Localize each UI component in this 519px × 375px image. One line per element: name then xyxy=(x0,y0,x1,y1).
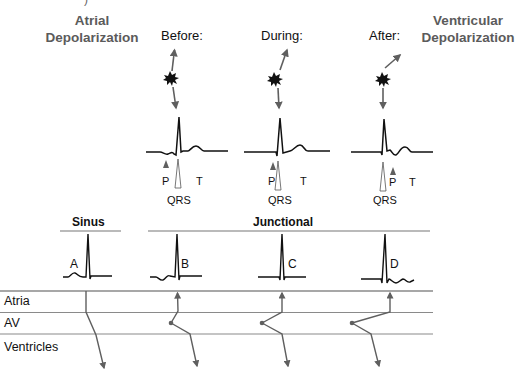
after-focus-group xyxy=(375,55,400,108)
during-focus-group xyxy=(267,50,287,108)
sinus-conduction-arrow xyxy=(86,291,104,368)
conduction-path-d xyxy=(350,293,390,366)
ecg-trace-d xyxy=(361,234,414,283)
p-wave-marker-after xyxy=(390,167,396,175)
antegrade-arrow-d xyxy=(352,323,379,366)
qrs-marker-during xyxy=(275,161,281,190)
ecg-trace-c xyxy=(258,234,306,280)
junctional-focus-icon-before xyxy=(163,71,179,86)
diagram-canvas xyxy=(0,0,519,375)
junctional-focus-icon-during xyxy=(267,72,283,87)
retrograde-arrow-b xyxy=(171,293,178,323)
ecg-strip-before xyxy=(146,117,228,155)
qrs-marker-before xyxy=(175,159,181,188)
arrow-up-during xyxy=(280,50,287,70)
ecg-trace-b xyxy=(150,234,202,280)
ecg-strip-during xyxy=(244,118,330,156)
junctional-focus-icon-after xyxy=(375,72,391,87)
arrow-down-before xyxy=(173,87,176,108)
before-focus-group xyxy=(163,50,179,108)
antegrade-arrow-c xyxy=(262,323,288,366)
junctional-origin-dot-d xyxy=(350,321,355,326)
conduction-path-c xyxy=(260,293,288,366)
arrow-up-after xyxy=(385,55,400,68)
p-wave-marker-during xyxy=(270,162,276,170)
retrograde-arrow-d xyxy=(352,293,390,323)
arrow-up-before xyxy=(172,50,175,71)
arrow-down-during xyxy=(278,88,279,108)
retrograde-arrow-c xyxy=(262,293,282,323)
antegrade-arrow-b xyxy=(171,323,197,366)
junctional-origin-dot-c xyxy=(260,321,265,326)
ecg-trace-a xyxy=(63,234,112,279)
ecg-strip-after xyxy=(351,119,433,155)
junctional-origin-dot-b xyxy=(169,321,174,326)
p-wave-marker-before xyxy=(163,160,169,168)
conduction-path-a xyxy=(86,291,104,368)
conduction-path-b xyxy=(169,293,197,366)
qrs-marker-after xyxy=(380,162,386,191)
